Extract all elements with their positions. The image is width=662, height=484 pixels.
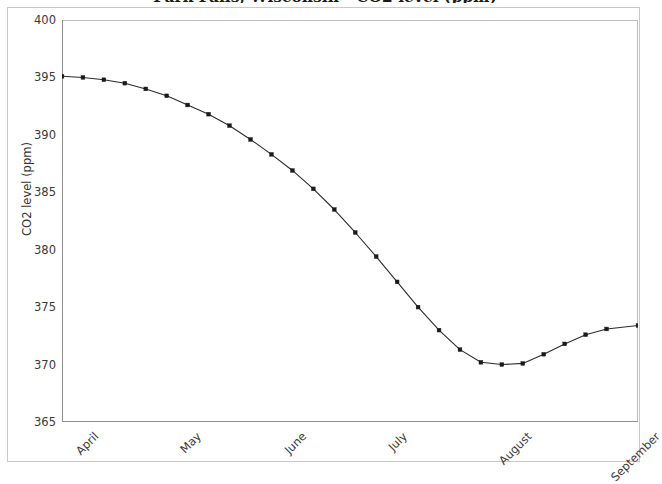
x-tick-label: July (386, 430, 409, 453)
x-tick-label: August (497, 430, 534, 467)
x-tick-label: September (608, 430, 661, 483)
x-tick-label: May (178, 430, 203, 455)
x-tick-label: April (74, 430, 101, 457)
x-tick-label: June (283, 430, 309, 456)
